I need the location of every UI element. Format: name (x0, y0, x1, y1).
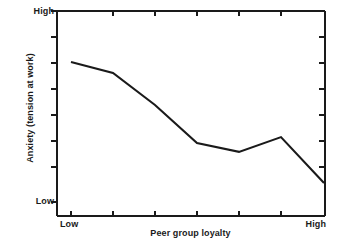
y-axis-ticks (51, 11, 57, 202)
x-axis-ticks-mirror (113, 11, 281, 16)
y-axis-low-label: Low (26, 196, 54, 206)
x-axis-title: Peer group loyalty (57, 228, 324, 238)
x-axis-high-label: High (296, 219, 326, 229)
x-axis-ticks (71, 211, 281, 216)
y-axis-high-label: High (26, 6, 54, 16)
y-axis-ticks-mirror (319, 37, 325, 167)
line-chart-plot (0, 0, 345, 248)
x-axis-low-label: Low (60, 219, 78, 229)
y-axis-title: Anxiety (tension at work) (20, 0, 40, 216)
data-series-line (71, 62, 324, 183)
chart-figure: Anxiety (tension at work) Peer group loy… (0, 0, 345, 248)
